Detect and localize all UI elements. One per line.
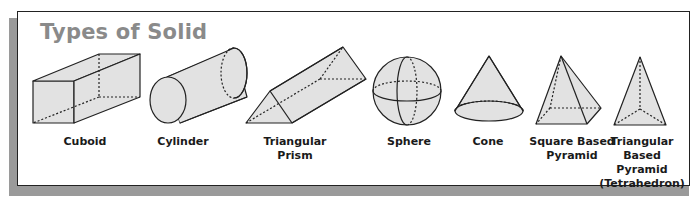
label-line: Based Pyramid	[598, 149, 686, 177]
label-cone: Cone	[458, 135, 518, 149]
label-tetrahedron: Triangular Based Pyramid (Tetrahedron)	[598, 135, 686, 191]
label-line: Triangular	[598, 135, 686, 149]
label-triangular-prism: Triangular Prism	[245, 135, 345, 163]
tetrahedron-icon	[614, 57, 666, 125]
sphere-icon	[373, 57, 441, 125]
label-cylinder: Cylinder	[148, 135, 218, 149]
label-cuboid: Cuboid	[50, 135, 120, 149]
cylinder-icon	[150, 48, 247, 123]
triangular-prism-icon	[246, 47, 366, 123]
cone-icon	[455, 56, 523, 121]
square-based-pyramid-icon	[536, 56, 601, 124]
cuboid-icon	[33, 54, 140, 123]
label-line: (Tetrahedron)	[598, 177, 686, 191]
solids-illustration	[0, 0, 698, 198]
label-sphere: Sphere	[374, 135, 444, 149]
